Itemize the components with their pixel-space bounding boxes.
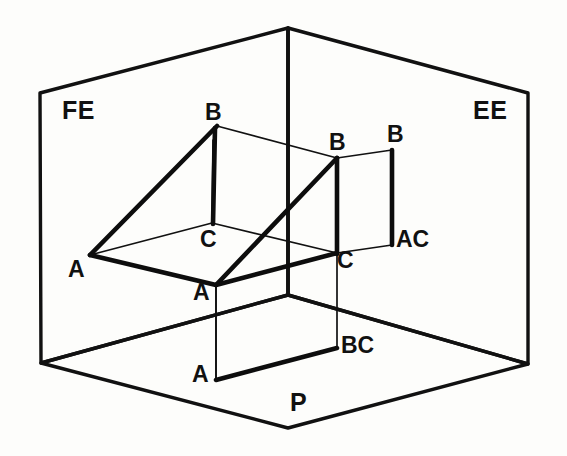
plane-label-ee: EE bbox=[473, 98, 507, 123]
vertex-label-ee-c: C bbox=[337, 249, 354, 272]
vertex-label-ee-b-inner: B bbox=[329, 131, 346, 154]
vertex-label-fe-b: B bbox=[205, 101, 222, 124]
vertex-label-p-bc: BC bbox=[341, 334, 374, 357]
vertex-label-fe-a: A bbox=[68, 258, 85, 281]
diagram-canvas bbox=[0, 0, 567, 456]
vertex-label-fe-c: C bbox=[200, 228, 217, 251]
vertex-label-p-a: A bbox=[192, 363, 209, 386]
plane-faces bbox=[40, 28, 528, 428]
vertex-label-ee-b-outer: B bbox=[387, 123, 404, 146]
projection-diagram: FE EE P B C A A B B C AC A BC bbox=[0, 0, 567, 456]
vertex-label-solid-a: A bbox=[193, 281, 210, 304]
fe-edge-B-to-Cfoot bbox=[213, 128, 215, 224]
plane-label-p: P bbox=[290, 390, 307, 415]
plane-label-fe: FE bbox=[62, 98, 95, 123]
vertex-label-ee-ac: AC bbox=[396, 228, 429, 251]
